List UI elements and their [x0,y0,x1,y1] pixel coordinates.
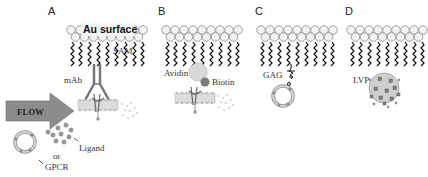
panel-letter-b: B [158,5,165,17]
ligand-specks-a [121,102,138,119]
or-label: or [53,151,61,161]
panel-letter-d: D [345,5,353,17]
panel-b: B Avidin Biotin [158,5,242,114]
sam-layer-b [162,26,243,66]
membrane-receptor-a [78,94,118,121]
ligand-specks-b [217,94,234,111]
biotin-label: Biotin [212,77,235,87]
mab-label: mAb [64,75,83,85]
gag-chain-icon [287,64,295,86]
panel-letter-a: A [48,5,56,17]
gag-label: GAG [263,70,283,80]
flow-arrow: FLOW [6,93,74,129]
flow-label: FLOW [17,107,44,117]
panel-c: C GAG [255,5,337,106]
antibody-icon [84,64,110,102]
panel-d: D LVP [345,5,427,108]
sam-capture-diagram: A Au surface SAM mAb FLOW Ligand or GPCR… [0,0,428,177]
gpcr-label: GPCR [45,162,69,172]
avidin-label: Avidin [164,68,189,78]
sam-layer-d [347,26,428,66]
sam-layer-c [257,26,338,66]
lvp-label: LVP [353,75,369,85]
gpcr-pointer [39,160,43,164]
membrane-receptor-b [175,87,215,114]
ligand-pointer [74,138,78,141]
biotin-icon [201,78,210,87]
bound-vesicle-icon [273,86,294,106]
au-surface-label: Au surface [83,23,137,35]
sam-label: SAM [113,46,133,56]
lvp-particle-icon [369,73,401,108]
ligand-label: Ligand [79,143,105,153]
gpcr-vesicle-icon [15,132,36,152]
panel-letter-c: C [255,5,263,17]
